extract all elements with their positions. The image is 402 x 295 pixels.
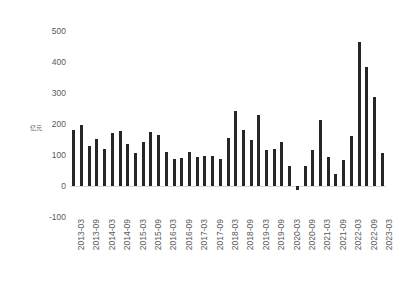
bar — [257, 115, 260, 186]
bar — [273, 149, 276, 186]
x-tick-label: 2019-09 — [277, 219, 286, 250]
x-tick-label: 2023-03 — [385, 219, 394, 250]
x-tick-label: 2022-09 — [370, 219, 379, 250]
y-tick-label: 200 — [36, 120, 66, 129]
zero-baseline — [70, 186, 386, 187]
x-tick-label: 2019-03 — [262, 219, 271, 250]
bar — [358, 42, 361, 186]
y-tick-label: 100 — [36, 151, 66, 160]
x-tick-label: 2021-09 — [339, 219, 348, 250]
x-tick-label: 2014-03 — [108, 219, 117, 250]
y-tick-label: -100 — [36, 213, 66, 222]
x-tick-label: 2014-09 — [123, 219, 132, 250]
bar — [80, 125, 83, 186]
bar — [234, 111, 237, 186]
bar — [219, 159, 222, 186]
bar — [334, 174, 337, 186]
plot-area — [70, 31, 386, 217]
bar — [296, 186, 299, 190]
bar — [373, 97, 376, 186]
x-tick-label: 2015-09 — [154, 219, 163, 250]
bar — [95, 139, 98, 186]
bar — [72, 130, 75, 186]
y-tick-label: 500 — [36, 27, 66, 36]
bar — [119, 131, 122, 186]
bar — [196, 157, 199, 186]
bar — [103, 149, 106, 186]
bar — [350, 136, 353, 186]
bar — [311, 150, 314, 186]
y-tick-label: 0 — [36, 182, 66, 191]
x-tick-label: 2020-09 — [308, 219, 317, 250]
bar — [211, 156, 214, 186]
bar — [327, 157, 330, 186]
x-tick-label: 2013-03 — [77, 219, 86, 250]
x-tick-label: 2017-03 — [200, 219, 209, 250]
x-tick-label: 2022-03 — [354, 219, 363, 250]
x-tick-label: 2017-09 — [216, 219, 225, 250]
bar — [365, 67, 368, 186]
y-tick-label: 400 — [36, 58, 66, 67]
bar — [280, 142, 283, 186]
bar — [250, 140, 253, 186]
bar — [173, 159, 176, 186]
bar — [342, 160, 345, 186]
bar — [134, 153, 137, 186]
x-axis: 2013-032013-092014-032014-092015-032015-… — [70, 219, 386, 289]
bar — [288, 166, 291, 186]
x-tick-label: 2018-09 — [246, 219, 255, 250]
bar — [180, 158, 183, 186]
x-tick-label: 2013-09 — [92, 219, 101, 250]
bar — [149, 132, 152, 186]
bar-chart: 亿元 2013-032013-092014-032014-092015-0320… — [0, 0, 402, 295]
bar — [188, 152, 191, 186]
y-tick-label: 300 — [36, 89, 66, 98]
bar — [304, 166, 307, 186]
bar — [88, 146, 91, 186]
bar — [242, 130, 245, 186]
bar — [142, 142, 145, 186]
bar — [265, 150, 268, 186]
bar — [165, 152, 168, 186]
x-tick-label: 2018-03 — [231, 219, 240, 250]
bar — [111, 133, 114, 186]
bar — [319, 120, 322, 186]
x-tick-label: 2016-09 — [185, 219, 194, 250]
bar — [203, 156, 206, 186]
x-tick-label: 2020-03 — [293, 219, 302, 250]
bar — [381, 153, 384, 186]
bar — [126, 144, 129, 186]
bar — [157, 135, 160, 186]
bar — [227, 138, 230, 186]
x-tick-label: 2016-03 — [169, 219, 178, 250]
x-tick-label: 2015-03 — [139, 219, 148, 250]
x-tick-label: 2021-03 — [323, 219, 332, 250]
